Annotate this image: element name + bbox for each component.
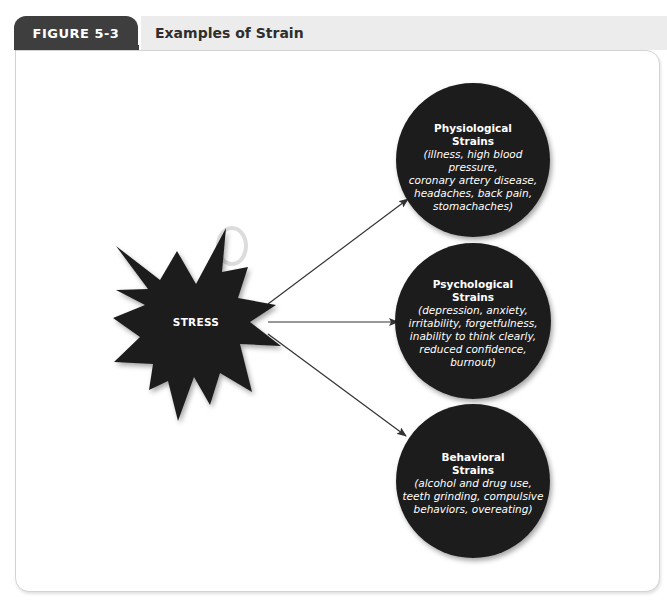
behavioral-strains-text: Behavioral Strains (alcohol and drug use… bbox=[398, 451, 548, 516]
behavioral-examples-line-1: (alcohol and drug use, bbox=[398, 477, 548, 490]
behavioral-examples-line-3: behaviors, overeating) bbox=[398, 503, 548, 516]
behavioral-title-line-2: Strains bbox=[398, 464, 548, 477]
arrow-to-behavioral bbox=[268, 334, 406, 436]
psychological-examples-line-1: (depression, anxiety, bbox=[398, 304, 548, 317]
psychological-examples-line-3: inability to think clearly, bbox=[398, 330, 548, 343]
physiological-title-line-1: Physiological bbox=[398, 122, 548, 135]
psychological-strains-text: Psychological Strains (depression, anxie… bbox=[398, 278, 548, 369]
psychological-title-line-2: Strains bbox=[398, 291, 548, 304]
physiological-examples-line-4: stomachaches) bbox=[398, 200, 548, 213]
psychological-title-line-1: Psychological bbox=[398, 278, 548, 291]
physiological-examples-line-1: (illness, high blood pressure, bbox=[398, 148, 548, 174]
stress-label: STRESS bbox=[166, 316, 226, 328]
physiological-title-line-2: Strains bbox=[398, 135, 548, 148]
physiological-examples-line-3: headaches, back pain, bbox=[398, 187, 548, 200]
psychological-examples-line-4: reduced confidence, bbox=[398, 343, 548, 356]
behavioral-examples-line-2: teeth grinding, compulsive bbox=[398, 490, 548, 503]
arrow-to-physiological bbox=[268, 199, 408, 304]
physiological-examples-line-2: coronary artery disease, bbox=[398, 174, 548, 187]
diagram-canvas bbox=[0, 0, 667, 601]
psychological-examples-line-5: burnout) bbox=[398, 356, 548, 369]
physiological-strains-text: Physiological Strains (illness, high blo… bbox=[398, 122, 548, 213]
behavioral-title-line-1: Behavioral bbox=[398, 451, 548, 464]
psychological-examples-line-2: irritability, forgetfulness, bbox=[398, 317, 548, 330]
